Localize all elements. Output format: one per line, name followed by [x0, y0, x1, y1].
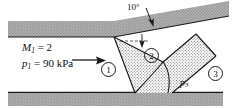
mach-symbol: M	[22, 41, 31, 53]
region-label-1: 1	[101, 62, 116, 77]
right-arrow-icon	[72, 57, 106, 65]
mach-value: = 2	[38, 41, 52, 53]
shock-region-3-fill	[163, 34, 216, 93]
pressure-value: = 90 kPa	[34, 57, 73, 69]
pressure-subscript: 1	[28, 62, 32, 71]
shock-reflection-diagram: 10° M1 = 2 p1 = 90 kPa p3 1 2 3	[0, 0, 237, 108]
region-label-2: 2	[144, 48, 159, 63]
angle-label: 10°	[127, 3, 140, 12]
bottom-wall	[8, 92, 223, 106]
region-label-3: 3	[208, 66, 223, 81]
p3-subscript: 3	[185, 81, 188, 88]
inlet-pressure-label: p1 = 90 kPa	[22, 58, 73, 70]
mach-number-label: M1 = 2	[22, 42, 52, 54]
outlet-pressure-label: p3	[180, 78, 188, 89]
top-wall-upstream	[8, 21, 114, 37]
mach-subscript: 1	[31, 46, 35, 55]
